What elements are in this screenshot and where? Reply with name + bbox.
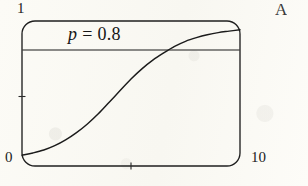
threshold-value: 0.8	[97, 24, 120, 44]
threshold-equals: =	[82, 24, 92, 44]
plot-frame	[22, 21, 240, 166]
figure-page: 1 0 10 p = 0.8 A	[0, 0, 308, 186]
logistic-curve	[22, 30, 240, 155]
threshold-symbol: p	[68, 24, 77, 44]
x-axis-max-label: 10	[251, 150, 266, 165]
y-axis-max-label: 1	[17, 1, 25, 16]
threshold-annotation: p = 0.8	[68, 25, 121, 43]
clipped-margin-text: A	[275, 1, 287, 18]
y-axis-min-label: 0	[5, 150, 13, 165]
